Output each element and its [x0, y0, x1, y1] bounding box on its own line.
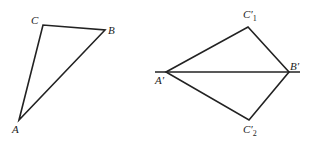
label-b-prime: B′ [290, 61, 299, 72]
label-a: A [12, 124, 19, 135]
label-c: C [31, 15, 38, 26]
label-c1-prime: C′1 [243, 9, 257, 23]
triangle-abc [19, 25, 105, 120]
geometry-diagram: C B A A′ B′ C′1 C′2 [0, 0, 315, 147]
label-a-prime: A′ [155, 75, 164, 86]
label-b: B [108, 25, 115, 36]
label-c2-prime: C′2 [243, 124, 257, 138]
quadrilateral-a-c1-b-c2 [166, 27, 289, 120]
